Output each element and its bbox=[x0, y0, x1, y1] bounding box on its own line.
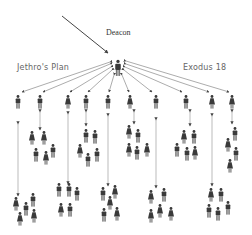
person-icon bbox=[126, 125, 132, 139]
vertical-links bbox=[18, 112, 232, 196]
person-icon bbox=[24, 202, 29, 216]
person-icon bbox=[95, 148, 100, 162]
person-icon bbox=[107, 196, 113, 210]
person-icon bbox=[148, 190, 154, 204]
person-icon bbox=[234, 147, 239, 161]
person-icon bbox=[65, 95, 71, 109]
person-icon bbox=[209, 95, 215, 109]
mid-group-3 bbox=[126, 125, 150, 160]
person-icon bbox=[233, 127, 238, 141]
person-icon bbox=[208, 188, 214, 202]
mid-group-2 bbox=[77, 129, 99, 167]
bottom-group-4 bbox=[148, 188, 174, 223]
person-icon bbox=[34, 148, 39, 162]
person-icon bbox=[192, 146, 198, 160]
person-icon bbox=[154, 95, 159, 109]
person-icon bbox=[38, 95, 43, 109]
person-icon bbox=[84, 129, 89, 143]
person-icon bbox=[75, 187, 80, 201]
person-icon bbox=[57, 183, 62, 197]
bottom-group-3 bbox=[101, 185, 120, 222]
top-row bbox=[16, 95, 235, 109]
person-icon bbox=[225, 138, 231, 152]
mid-group-4 bbox=[175, 130, 198, 161]
person-icon bbox=[148, 209, 154, 223]
person-icon bbox=[144, 143, 150, 157]
person-icon bbox=[207, 204, 212, 218]
jethros-plan-label: Jethro's Plan bbox=[17, 63, 69, 72]
person-icon bbox=[31, 193, 36, 207]
exodus-18-label: Exodus 18 bbox=[183, 63, 226, 72]
person-icon bbox=[136, 129, 141, 143]
person-icon bbox=[185, 147, 190, 161]
person-icon bbox=[102, 208, 107, 222]
bottom-group-1 bbox=[13, 193, 37, 226]
person-icon bbox=[227, 159, 233, 173]
person-icon bbox=[135, 146, 140, 160]
person-icon bbox=[84, 95, 89, 109]
person-icon bbox=[181, 130, 187, 144]
person-icon bbox=[68, 203, 73, 217]
person-icon bbox=[31, 209, 37, 223]
bottom-group-5 bbox=[207, 188, 231, 221]
person-icon bbox=[93, 130, 98, 144]
person-icon bbox=[127, 95, 133, 109]
mid-group-5 bbox=[225, 127, 238, 173]
person-icon bbox=[101, 187, 106, 201]
person-icon bbox=[226, 201, 231, 215]
bottom-group-2 bbox=[57, 183, 80, 217]
person-icon bbox=[114, 207, 120, 221]
mid-group-1 bbox=[29, 131, 55, 165]
person-icon bbox=[162, 188, 167, 202]
person-icon bbox=[51, 144, 56, 158]
person-icon bbox=[43, 151, 49, 165]
person-icon bbox=[77, 144, 83, 158]
deacon-label: Deacon bbox=[106, 28, 130, 37]
person-icon bbox=[229, 95, 235, 109]
person-icon bbox=[175, 143, 180, 157]
person-icon bbox=[29, 131, 35, 145]
person-icon bbox=[168, 207, 174, 221]
person-icon bbox=[16, 95, 21, 109]
person-icon bbox=[41, 131, 47, 145]
person-icon bbox=[112, 185, 118, 199]
person-icon bbox=[86, 153, 91, 167]
person-icon bbox=[157, 204, 163, 218]
person-icon bbox=[219, 188, 224, 202]
person-icon bbox=[184, 95, 189, 109]
person-icon bbox=[58, 203, 64, 217]
person-icon bbox=[126, 143, 132, 157]
person-icon bbox=[192, 130, 197, 144]
incoming-arrow bbox=[62, 16, 108, 53]
person-icon bbox=[17, 212, 23, 226]
person-icon bbox=[216, 207, 221, 221]
person-icon bbox=[106, 95, 111, 109]
person-icon bbox=[13, 197, 19, 211]
person-icon bbox=[67, 183, 72, 197]
leader-figure-icon bbox=[115, 60, 121, 76]
